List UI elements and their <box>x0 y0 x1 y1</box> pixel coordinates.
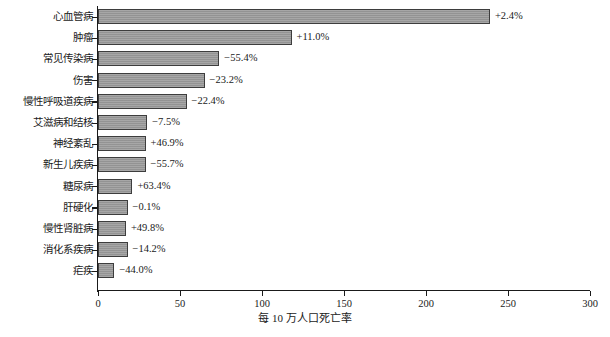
x-axis-title: 每 10 万人口死亡率 <box>0 311 610 325</box>
category-label: 慢性肾脏病 <box>1 218 93 239</box>
category-label: 消化系疾病 <box>1 239 93 260</box>
x-axis-tick <box>590 291 591 296</box>
y-axis-tick <box>92 271 98 272</box>
x-axis-tick-label: 200 <box>418 297 434 310</box>
bar-value-label: −23.2% <box>210 72 243 88</box>
category-label: 神经紊乱 <box>1 133 93 154</box>
x-axis-tick <box>344 291 345 296</box>
category-label: 糖尿病 <box>1 176 93 197</box>
bar-value-label: −44.0% <box>119 262 152 278</box>
x-axis-tick-label: 300 <box>582 297 598 310</box>
bar <box>98 242 128 257</box>
y-axis-tick <box>92 229 98 230</box>
category-label: 艾滋病和结核 <box>1 112 93 133</box>
x-axis-tick <box>508 291 509 296</box>
y-axis-tick <box>92 186 98 187</box>
x-axis-tick <box>262 291 263 296</box>
bar <box>98 115 147 130</box>
x-axis-tick-label: 100 <box>254 297 270 310</box>
bar-value-label: +46.9% <box>151 135 184 151</box>
category-label: 疟疾 <box>1 260 93 281</box>
bar <box>98 263 114 278</box>
bar-chart: 心血管病肿瘤常见传染病伤害慢性呼吸道疾病艾滋病和结核神经紊乱新生儿疾病糖尿病肝硬… <box>0 0 610 337</box>
category-label: 常见传染病 <box>1 48 93 69</box>
bar-value-label: −0.1% <box>133 199 161 215</box>
x-axis-tick-label: 0 <box>95 297 100 310</box>
bar <box>98 51 219 66</box>
bar-value-label: +49.8% <box>131 220 164 236</box>
bar <box>98 221 126 236</box>
bar-value-label: −22.4% <box>192 93 225 109</box>
bar <box>98 94 187 109</box>
figure-caption <box>0 329 610 337</box>
bar-value-label: +63.4% <box>137 178 170 194</box>
bar-value-label: −7.5% <box>152 114 180 130</box>
category-label: 慢性呼吸道疾病 <box>1 91 93 112</box>
y-axis-tick <box>92 59 98 60</box>
category-label: 伤害 <box>1 70 93 91</box>
y-axis-tick <box>92 250 98 251</box>
bar-value-label: +11.0% <box>297 29 330 45</box>
bar <box>98 157 146 172</box>
plot-area: +2.4%+11.0%−55.4%−23.2%−22.4%−7.5%+46.9%… <box>98 6 590 291</box>
x-axis-tick <box>98 291 99 296</box>
bar <box>98 179 132 194</box>
y-axis-tick <box>92 207 98 208</box>
bar-value-label: −55.4% <box>224 50 257 66</box>
y-axis-tick <box>92 17 98 18</box>
bar-value-label: −14.2% <box>133 241 166 257</box>
y-axis-tick <box>92 38 98 39</box>
y-axis-tick <box>92 144 98 145</box>
y-axis-tick <box>92 165 98 166</box>
bar <box>98 136 146 151</box>
category-label: 新生儿疾病 <box>1 154 93 175</box>
category-label: 肿瘤 <box>1 27 93 48</box>
x-axis-tick <box>180 291 181 296</box>
x-axis-tick-label: 50 <box>175 297 186 310</box>
y-axis-tick <box>92 101 98 102</box>
bar <box>98 200 128 215</box>
bar <box>98 73 205 88</box>
bar <box>98 9 490 24</box>
x-axis-tick-label: 250 <box>500 297 516 310</box>
y-axis-tick <box>92 123 98 124</box>
bar-value-label: −55.7% <box>151 156 184 172</box>
bar-value-label: +2.4% <box>495 8 523 24</box>
category-label: 肝硬化 <box>1 197 93 218</box>
category-axis-labels: 心血管病肿瘤常见传染病伤害慢性呼吸道疾病艾滋病和结核神经紊乱新生儿疾病糖尿病肝硬… <box>0 6 93 291</box>
y-axis-tick <box>92 80 98 81</box>
bar <box>98 30 292 45</box>
x-axis-tick-label: 150 <box>336 297 352 310</box>
x-axis-tick <box>426 291 427 296</box>
category-label: 心血管病 <box>1 6 93 27</box>
